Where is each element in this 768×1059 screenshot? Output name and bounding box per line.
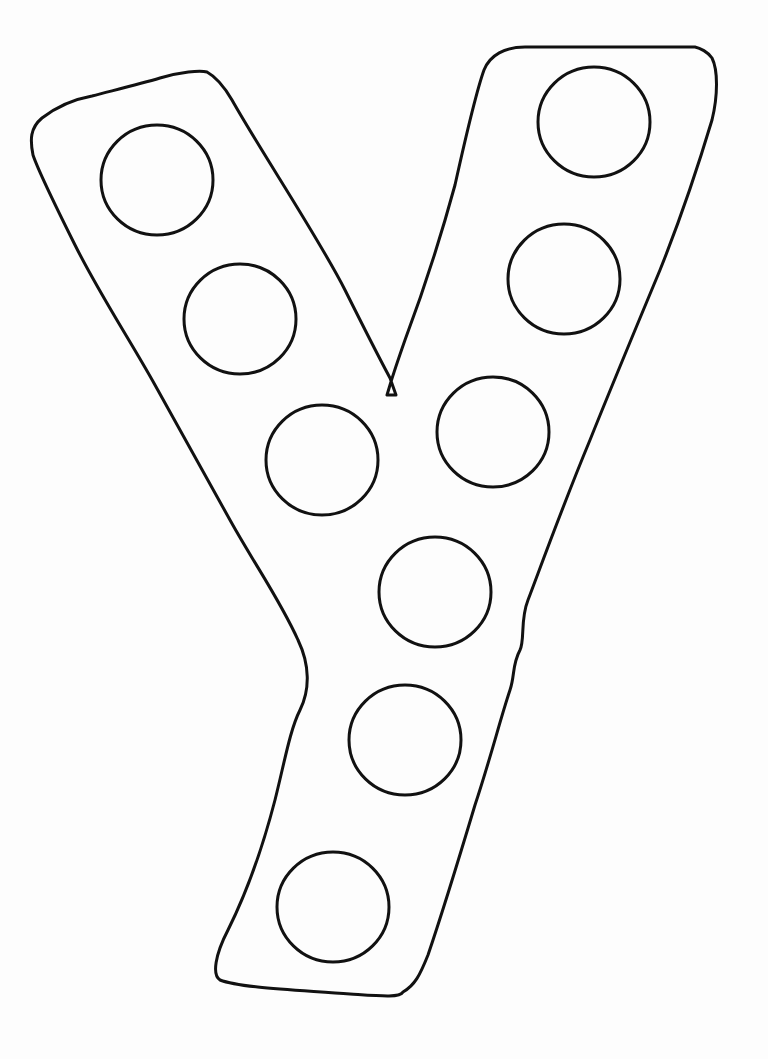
dot-circle [266, 405, 378, 515]
dot-circle [349, 685, 461, 795]
dot-circle [277, 852, 389, 962]
dot-circle [184, 264, 296, 374]
letter-y-outline [31, 47, 716, 996]
dot-circle [379, 537, 491, 647]
dot-marker-worksheet [0, 0, 768, 1059]
dot-circle [437, 377, 549, 487]
dot-circle [538, 67, 650, 177]
letter-y-drawing [0, 0, 768, 1059]
dot-circle [508, 224, 620, 334]
dot-circles [101, 67, 650, 962]
dot-circle [101, 125, 213, 235]
